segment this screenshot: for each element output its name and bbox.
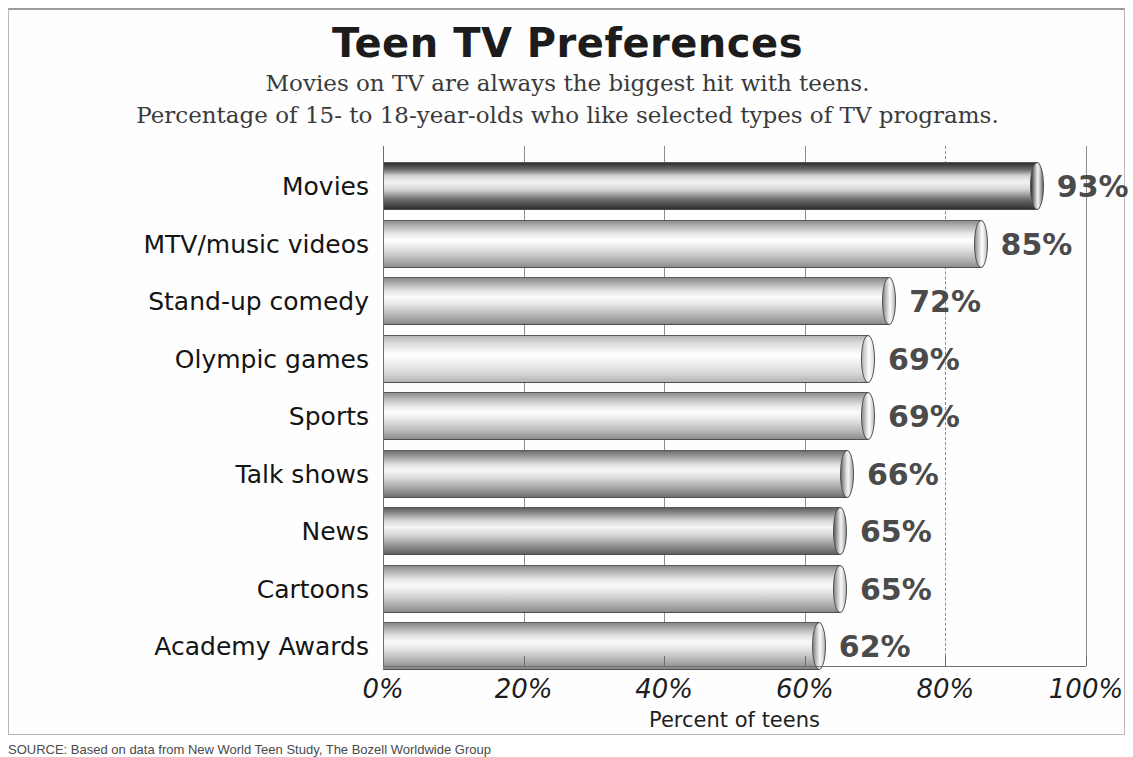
- bar[interactable]: 85%: [383, 220, 981, 268]
- y-axis-line: [383, 146, 384, 666]
- bar-end-cap: [974, 220, 988, 268]
- bar[interactable]: 65%: [383, 565, 840, 613]
- x-tick-60: [805, 656, 806, 666]
- category-label: News: [301, 517, 369, 546]
- bar[interactable]: 65%: [383, 507, 840, 555]
- category-label: Olympic games: [175, 344, 369, 373]
- x-tick-label: 100%: [1049, 674, 1123, 704]
- bar-end-cap: [840, 450, 854, 498]
- chart-frame: Teen TV Preferences Movies on TV are alw…: [8, 8, 1125, 735]
- category-label: Academy Awards: [154, 632, 369, 661]
- value-label: 69%: [888, 399, 960, 434]
- x-tick-label: 60%: [776, 674, 834, 704]
- bar-row: Cartoons65%: [383, 565, 1086, 613]
- bar[interactable]: 93%: [383, 162, 1037, 210]
- bar-rows: Movies93%MTV/music videos85%Stand-up com…: [383, 146, 1086, 666]
- x-tick-0: [383, 656, 384, 666]
- bar-body: [383, 221, 981, 267]
- x-tick-40: [664, 656, 665, 666]
- bar-row: MTV/music videos85%: [383, 220, 1086, 268]
- value-label: 72%: [909, 284, 981, 319]
- bar-row: Stand-up comedy72%: [383, 277, 1086, 325]
- source-note: SOURCE: Based on data from New World Tee…: [8, 742, 491, 757]
- category-label: Stand-up comedy: [148, 287, 369, 316]
- x-tick-80: [945, 656, 946, 666]
- bar[interactable]: 66%: [383, 450, 847, 498]
- category-label: Talk shows: [236, 459, 369, 488]
- bar[interactable]: 69%: [383, 335, 868, 383]
- bar-row: Movies93%: [383, 162, 1086, 210]
- bar-body: [383, 278, 889, 324]
- x-tick-label: 40%: [635, 674, 693, 704]
- category-label: Cartoons: [257, 574, 369, 603]
- bar-body: [383, 163, 1037, 209]
- bar-body: [383, 508, 840, 554]
- gridline-100: [1086, 146, 1087, 666]
- chart-title: Teen TV Preferences: [9, 20, 1126, 66]
- x-tick-label: 20%: [495, 674, 553, 704]
- bar-body: [383, 336, 868, 382]
- bar[interactable]: 69%: [383, 392, 868, 440]
- value-label: 85%: [1001, 226, 1073, 261]
- value-label: 65%: [860, 571, 932, 606]
- bar-end-cap: [882, 277, 896, 325]
- plot-area: Movies93%MTV/music videos85%Stand-up com…: [383, 146, 1086, 666]
- bar-row: Academy Awards62%: [383, 622, 1086, 670]
- value-label: 93%: [1057, 169, 1129, 204]
- bar-row: Talk shows66%: [383, 450, 1086, 498]
- chart-subtitle-line-2: Percentage of 15- to 18-year-olds who li…: [9, 102, 1126, 128]
- bar-row: Sports69%: [383, 392, 1086, 440]
- bar-end-cap: [1030, 162, 1044, 210]
- bar-end-cap: [812, 622, 826, 670]
- bar-end-cap: [861, 392, 875, 440]
- value-label: 62%: [839, 629, 911, 664]
- category-label: Sports: [289, 402, 369, 431]
- bar-body: [383, 393, 868, 439]
- x-axis: 0%20%40%60%80%100%: [383, 666, 1086, 667]
- value-label: 69%: [888, 341, 960, 376]
- bar[interactable]: 62%: [383, 622, 819, 670]
- bar-end-cap: [861, 335, 875, 383]
- chart-subtitle-line-1: Movies on TV are always the biggest hit …: [9, 70, 1126, 96]
- category-label: Movies: [282, 172, 369, 201]
- bar-body: [383, 623, 819, 669]
- bar-end-cap: [833, 565, 847, 613]
- value-label: 66%: [867, 456, 939, 491]
- bar-end-cap: [833, 507, 847, 555]
- bar-body: [383, 451, 847, 497]
- x-tick-20: [524, 656, 525, 666]
- bar-row: News65%: [383, 507, 1086, 555]
- x-tick-label: 80%: [916, 674, 974, 704]
- x-axis-title: Percent of teens: [383, 708, 1086, 732]
- x-tick-100: [1086, 656, 1087, 666]
- value-label: 65%: [860, 514, 932, 549]
- bar-body: [383, 566, 840, 612]
- bar-row: Olympic games69%: [383, 335, 1086, 383]
- x-tick-label: 0%: [362, 674, 403, 704]
- category-label: MTV/music videos: [143, 229, 369, 258]
- bar[interactable]: 72%: [383, 277, 889, 325]
